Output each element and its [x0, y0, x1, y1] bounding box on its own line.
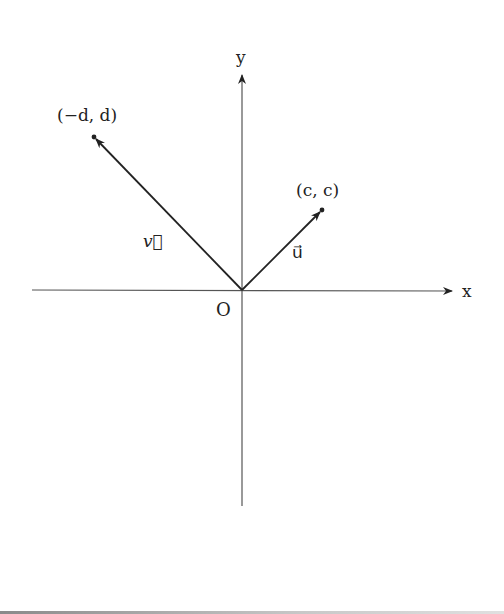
point-neg-d-d-label: (−d, d)	[57, 105, 117, 125]
point-c-c-dot	[320, 208, 325, 213]
vector-u-label: u⃗	[292, 242, 303, 262]
point-neg-d-d-dot	[92, 135, 97, 140]
origin-label: O	[216, 299, 231, 320]
vector-diagram: x y O v⃗ (−d, d) u⃗ (c, c)	[0, 0, 504, 614]
x-axis-label: x	[462, 281, 472, 301]
vector-v-label: v⃗	[143, 231, 163, 251]
x-axis: x	[32, 281, 472, 301]
vector-u: u⃗	[242, 208, 324, 290]
vector-v: v⃗	[92, 135, 242, 290]
y-axis: y	[235, 47, 246, 506]
y-axis-label: y	[235, 47, 246, 67]
point-c-c-label: (c, c)	[296, 180, 339, 200]
